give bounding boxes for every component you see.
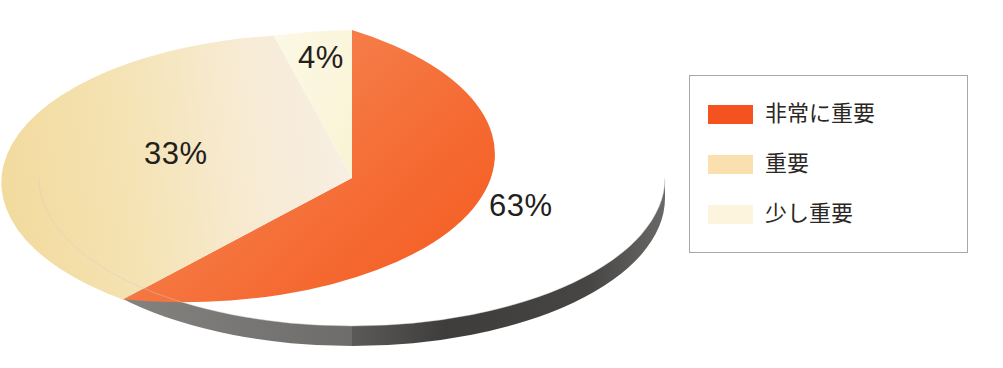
slice-label-very-important: 63% <box>489 190 553 221</box>
legend-swatch-icon <box>708 155 753 174</box>
slice-label-somewhat-important: 4% <box>298 42 344 73</box>
slice-label-important: 33% <box>144 138 208 169</box>
pie-slices <box>1 30 495 302</box>
legend-item-label: 非常に重要 <box>765 103 875 125</box>
legend-item-label: 少し重要 <box>765 203 853 225</box>
legend-item-somewhat-important[interactable]: 少し重要 <box>708 202 853 226</box>
legend-item-label: 重要 <box>765 153 809 175</box>
legend-item-very-important[interactable]: 非常に重要 <box>708 102 875 126</box>
legend-swatch-icon <box>708 105 753 124</box>
legend-item-important[interactable]: 重要 <box>708 152 809 176</box>
chart-legend: 非常に重要 重要 少し重要 <box>689 75 968 253</box>
pie-chart: 63% 33% 4% 非常に重要 重要 少し重要 <box>0 0 1003 368</box>
legend-swatch-icon <box>708 205 753 224</box>
